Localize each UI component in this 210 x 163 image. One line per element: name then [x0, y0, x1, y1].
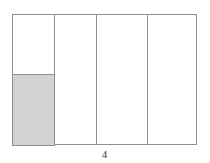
- area-model-rectangle: [12, 14, 197, 145]
- column-3: [97, 15, 147, 144]
- column-4: [148, 15, 196, 144]
- column-1: [13, 15, 54, 144]
- figure-caption: 4: [12, 148, 197, 160]
- column-2: [55, 15, 96, 144]
- diagram-canvas: 4: [0, 0, 210, 163]
